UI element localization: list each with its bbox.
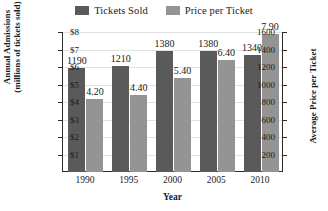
bar-tickets-sold: 1380: [200, 51, 217, 172]
bar-tickets-sold: 1340: [244, 55, 261, 172]
right-axis-tick: [283, 102, 287, 103]
legend-entry-price-per-ticket: Price per Ticket: [166, 5, 253, 16]
left-axis-tick-label: 800: [262, 98, 276, 107]
right-axis-tick-label: $5: [70, 81, 79, 90]
legend-entry-tickets-sold: Tickets Sold: [75, 5, 148, 16]
chart-legend: Tickets Sold Price per Ticket: [0, 5, 328, 16]
right-axis-tick-label: $1: [70, 151, 79, 160]
bar-value-label: 5.40: [174, 65, 192, 76]
bar-price-per-ticket: 4.20: [86, 99, 103, 173]
left-axis-title-line2: (millions of tickets sold): [12, 1, 23, 92]
left-axis-tick: [58, 137, 62, 138]
right-axis-tick: [283, 120, 287, 121]
right-axis-tick: [283, 137, 287, 138]
right-axis-tick-label: $8: [70, 28, 79, 37]
bar-tickets-sold: 1380: [156, 51, 173, 172]
left-axis-tick: [58, 50, 62, 51]
right-axis-tick-label: $3: [70, 116, 79, 125]
x-axis-tick-label: 2000: [152, 175, 192, 186]
bar-group: 13805.40: [153, 32, 193, 172]
legend-swatch-price-per-ticket: [166, 6, 180, 15]
bar-group: 13806.40: [197, 32, 237, 172]
left-axis-title: Annual Admissions (millions of tickets s…: [0, 0, 25, 117]
left-axis-tick-label: 200: [262, 151, 276, 160]
right-axis-tick: [283, 50, 287, 51]
left-axis-tick-label: 1600: [257, 28, 275, 37]
bar-chart-figure: Tickets Sold Price per Ticket Annual Adm…: [0, 0, 328, 211]
left-axis-tick: [58, 102, 62, 103]
bar-value-label: 1380: [198, 38, 218, 49]
bar-value-label: 1210: [111, 53, 131, 64]
left-axis-tick: [58, 155, 62, 156]
x-axis-tick-label: 2005: [196, 175, 236, 186]
right-axis-title: Average Price per Ticket: [306, 26, 320, 166]
x-axis-tick-label: 1990: [65, 175, 105, 186]
bar-price-per-ticket: 5.40: [174, 78, 191, 173]
left-axis-tick: [58, 85, 62, 86]
right-axis-tick-label: $4: [70, 98, 79, 107]
left-axis-tick: [58, 32, 62, 33]
legend-label-tickets-sold: Tickets Sold: [94, 5, 148, 16]
left-axis-title-line1: Annual Admissions: [2, 10, 13, 84]
legend-swatch-tickets-sold: [75, 6, 89, 15]
left-axis-tick: [58, 67, 62, 68]
x-axis-tick-labels: 19901995200020052010: [63, 175, 282, 186]
x-axis-title: Year: [62, 192, 283, 202]
left-axis-tick-label: 400: [262, 133, 276, 142]
right-axis-tick-label: $7: [70, 46, 79, 55]
x-axis-tick-label: 2010: [240, 175, 280, 186]
right-axis-tick: [283, 85, 287, 86]
bar-group: 12104.40: [110, 32, 150, 172]
right-axis-tick-label: $6: [70, 63, 79, 72]
legend-label-price-per-ticket: Price per Ticket: [185, 5, 253, 16]
right-axis-tick: [283, 155, 287, 156]
bar-value-label: 4.40: [130, 82, 148, 93]
x-axis-tick-label: 1995: [109, 175, 149, 186]
left-axis-tick-label: 600: [262, 116, 276, 125]
plot-area: 11904.2012104.4013805.4013806.4013407.90…: [62, 32, 283, 172]
left-axis-tick-label: 1200: [257, 63, 275, 72]
bar-value-label: 4.20: [86, 86, 104, 97]
bar-groups: 11904.2012104.4013805.4013806.4013407.90: [64, 32, 283, 172]
bar-price-per-ticket: 6.40: [218, 60, 235, 172]
bar-price-per-ticket: 4.40: [130, 95, 147, 172]
right-axis-tick: [283, 67, 287, 68]
left-axis-tick-label: 1400: [257, 46, 275, 55]
bar-value-label: 1380: [154, 38, 174, 49]
right-axis-tick-label: $2: [70, 133, 79, 142]
left-axis-tick: [58, 120, 62, 121]
bar-value-label: 6.40: [218, 47, 236, 58]
left-axis-tick-label: 1000: [257, 81, 275, 90]
bar-tickets-sold: 1210: [112, 66, 129, 172]
right-axis-tick: [283, 32, 287, 33]
